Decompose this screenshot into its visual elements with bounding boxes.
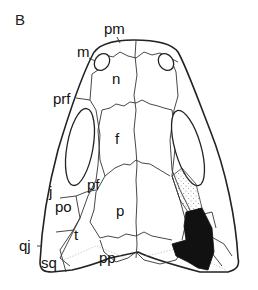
label-m: m [77, 43, 90, 60]
suture-f-p [105, 160, 170, 176]
prf-leader [76, 98, 90, 100]
label-pp: pp [99, 249, 116, 266]
label-sq: sq [41, 254, 57, 271]
suture-p-pp [100, 232, 172, 240]
midline-suture [134, 41, 137, 258]
label-f: f [115, 130, 120, 147]
skull-diagram: pm m n prf f pf j po p qj t sq pp [0, 0, 258, 290]
left-nostril [91, 51, 113, 74]
label-pf: pf [87, 176, 100, 193]
label-n: n [112, 70, 120, 87]
label-prf: prf [53, 90, 71, 107]
suture-n-f [102, 100, 172, 110]
label-pm: pm [104, 20, 125, 37]
label-po: po [55, 198, 72, 215]
label-qj: qj [19, 237, 31, 254]
label-p: p [116, 202, 124, 219]
faint-line-left [64, 246, 126, 260]
label-j: j [48, 183, 52, 200]
shaded-region [172, 208, 214, 270]
right-nostril [155, 51, 177, 74]
suture-t-sq [60, 230, 74, 266]
label-t: t [74, 226, 79, 243]
